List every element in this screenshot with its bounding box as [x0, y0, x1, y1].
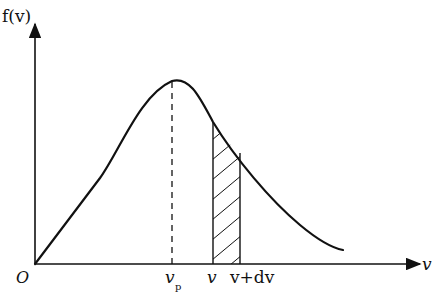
- strip-left-label: v: [207, 267, 217, 287]
- y-axis-label: f(v): [2, 6, 31, 26]
- origin-label: O: [16, 268, 29, 287]
- distribution-curve: [35, 80, 343, 264]
- peak-speed-subscript: p: [175, 281, 181, 292]
- distribution-diagram: f(v) v O v p v v+dv: [0, 0, 433, 296]
- x-axis-label: v: [422, 254, 432, 274]
- peak-speed-label: v: [165, 267, 175, 287]
- hatched-strip: [200, 100, 260, 290]
- strip-right-label: v+dv: [229, 267, 275, 287]
